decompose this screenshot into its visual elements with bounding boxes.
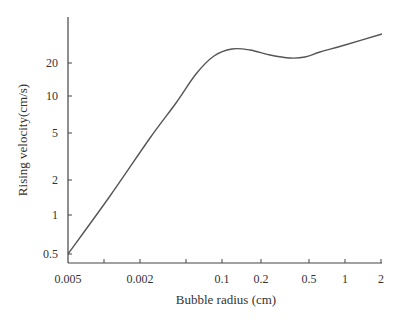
- x-tick-label: 0.1: [215, 272, 230, 286]
- chart-svg: 0.51251020 0.0050.0020.10.20.512 Bubble …: [0, 0, 404, 326]
- y-tick-label: 10: [46, 89, 58, 103]
- x-tick-label: 0.2: [254, 272, 269, 286]
- y-tick-label: 0.5: [43, 247, 58, 261]
- y-tick-label: 2: [52, 173, 58, 187]
- y-tick-label: 1: [52, 208, 58, 222]
- velocity-curve: [68, 34, 382, 254]
- x-tick-label: 2: [378, 272, 384, 286]
- x-tick-label: 0.005: [55, 272, 82, 286]
- y-tick-label: 5: [52, 126, 58, 140]
- y-axis-title: Rising velocity(cm/s): [15, 84, 30, 196]
- x-tick-label: 1: [342, 272, 348, 286]
- x-axis-title: Bubble radius (cm): [176, 292, 276, 307]
- x-tick-label: 0.5: [302, 272, 317, 286]
- x-tick-label: 0.002: [127, 272, 154, 286]
- y-tick-label: 20: [46, 56, 58, 70]
- axes: [68, 17, 382, 263]
